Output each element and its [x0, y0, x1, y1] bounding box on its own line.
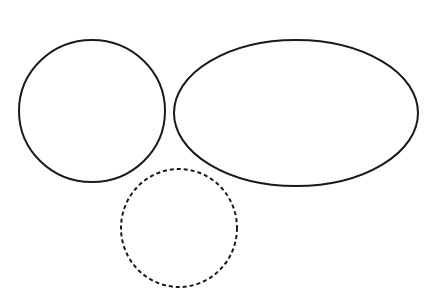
shapes-figure — [0, 0, 437, 288]
canvas-background — [0, 0, 437, 288]
diagram-canvas — [0, 0, 437, 288]
